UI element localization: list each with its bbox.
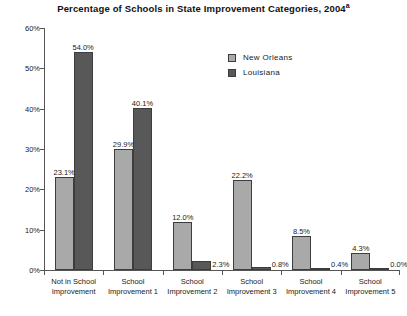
bar: 2.3% — [192, 261, 211, 270]
x-axis-category-label: Not in SchoolImprovement — [44, 277, 103, 296]
x-axis-category-label-line: School — [103, 277, 162, 287]
y-axis-tick-label: 20% — [6, 185, 40, 194]
chart-legend: New Orleans Louisiana — [228, 50, 348, 80]
x-axis-category-label: SchoolImprovement 5 — [341, 277, 400, 296]
x-axis-category-label-line: School — [341, 277, 400, 287]
bar: 54.0% — [74, 52, 93, 270]
bar-value-label: 23.1% — [54, 168, 75, 177]
bar: 8.5% — [292, 236, 311, 270]
y-axis-tick-label: 30% — [6, 145, 40, 154]
x-axis-tick — [163, 271, 164, 275]
y-axis-tick — [40, 68, 44, 69]
bar: 4.3% — [351, 253, 370, 270]
bar: 12.0% — [173, 222, 192, 270]
y-axis-tick — [40, 189, 44, 190]
bar-value-label: 40.1% — [132, 99, 153, 108]
x-axis-category-label-line: School — [163, 277, 222, 287]
y-axis-tick-label: 60% — [6, 24, 40, 33]
x-axis-category-label-line: Improvement 1 — [103, 287, 162, 297]
x-axis-category-label-line: Improvement 4 — [281, 287, 340, 297]
y-axis-labels: 0%10%20%30%40%50%60% — [0, 28, 40, 271]
bar-value-label: 0.0% — [390, 260, 407, 269]
bar-value-label: 22.2% — [232, 171, 253, 180]
bar: 22.2% — [233, 180, 252, 270]
x-axis-category-label-line: Improvement — [44, 287, 103, 297]
x-axis-tick — [44, 271, 45, 275]
x-axis-category-label: SchoolImprovement 1 — [103, 277, 162, 296]
bar: 0.8% — [252, 267, 271, 270]
x-axis-category-label-line: School — [222, 277, 281, 287]
bar: 23.1% — [55, 177, 74, 270]
y-axis-tick-label: 10% — [6, 226, 40, 235]
chart-title-footnote-marker: a — [346, 2, 350, 9]
legend-item-new-orleans: New Orleans — [228, 50, 348, 65]
x-axis-category-label-line: Improvement 2 — [163, 287, 222, 297]
x-axis-category-label: SchoolImprovement 4 — [281, 277, 340, 296]
chart-title: Percentage of Schools in State Improveme… — [0, 3, 407, 14]
legend-swatch-icon — [228, 69, 236, 77]
y-axis-tick-label: 40% — [6, 105, 40, 114]
bar: 0.4% — [311, 268, 330, 270]
bar-group: 29.9%40.1% — [103, 28, 162, 270]
chart-title-text: Percentage of Schools in State Improveme… — [57, 3, 346, 14]
y-axis-tick — [40, 109, 44, 110]
bar: 0.0% — [370, 268, 389, 270]
bar-value-label: 54.0% — [73, 43, 94, 52]
x-axis-category-label-line: School — [281, 277, 340, 287]
bar-group: 23.1%54.0% — [44, 28, 103, 270]
legend-item-label: New Orleans — [243, 53, 293, 62]
x-axis-tick — [103, 271, 104, 275]
x-axis-ticks — [44, 271, 400, 276]
y-axis-tick — [40, 28, 44, 29]
x-axis-category-label-line: Not in School — [44, 277, 103, 287]
x-axis-tick — [341, 271, 342, 275]
bar-value-label: 4.3% — [352, 244, 369, 253]
legend-item-label: Louisiana — [243, 68, 280, 77]
x-axis-tick — [281, 271, 282, 275]
x-axis-category-label-line: Improvement 3 — [222, 287, 281, 297]
x-axis-category-label: SchoolImprovement 2 — [163, 277, 222, 296]
x-axis-category-label: SchoolImprovement 3 — [222, 277, 281, 296]
bar: 29.9% — [114, 149, 133, 270]
x-axis-tick — [399, 271, 400, 275]
y-axis-tick — [40, 149, 44, 150]
bar-value-label: 8.5% — [293, 227, 310, 236]
legend-swatch-icon — [228, 54, 236, 62]
x-axis-labels: Not in SchoolImprovementSchoolImprovemen… — [44, 277, 400, 305]
bar-group: 4.3%0.0% — [341, 28, 400, 270]
bar: 40.1% — [133, 108, 152, 270]
y-axis-tick-label: 0% — [6, 266, 40, 275]
y-axis-tick — [40, 230, 44, 231]
x-axis-tick — [222, 271, 223, 275]
bar-value-label: 29.9% — [113, 140, 134, 149]
legend-item-louisiana: Louisiana — [228, 65, 348, 80]
bar-value-label: 12.0% — [172, 213, 193, 222]
bar-chart: Percentage of Schools in State Improveme… — [0, 0, 407, 316]
x-axis-category-label-line: Improvement 5 — [341, 287, 400, 297]
y-axis-tick-label: 50% — [6, 64, 40, 73]
bar-group: 12.0%2.3% — [163, 28, 222, 270]
